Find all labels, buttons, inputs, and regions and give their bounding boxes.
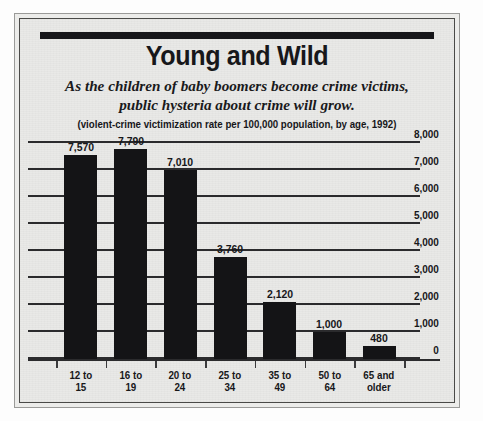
x-axis-tick [106, 361, 108, 368]
category-label-line: 65 and [356, 370, 403, 382]
bar-value-label: 7,790 [97, 135, 164, 147]
bar-value-label: 2,120 [246, 288, 313, 300]
category-label-line: 15 [57, 382, 104, 394]
x-axis-ticks [56, 361, 404, 368]
y-axis-tick-label: 8,000 [395, 128, 439, 140]
category-label-line: 35 to [256, 370, 303, 382]
bar [114, 149, 147, 359]
category-label-line: 12 to [57, 370, 104, 382]
x-axis-category-label: 35 to49 [256, 370, 303, 393]
chart-page: Young and Wild As the children of baby b… [0, 0, 483, 421]
x-axis-tick [255, 361, 257, 368]
category-label-line: 64 [306, 382, 353, 394]
bar-value-label: 1,000 [296, 318, 363, 330]
x-axis-tick [155, 361, 157, 368]
plot-area: 01,0002,0003,0004,0005,0006,0007,0008,00… [28, 141, 446, 359]
category-label-line: 50 to [306, 370, 353, 382]
category-label-line: 19 [107, 382, 154, 394]
chart-units-note: (violent-crime victimization rate per 10… [42, 119, 432, 130]
x-axis-category-label: 20 to24 [157, 370, 204, 393]
bar [164, 170, 197, 359]
x-axis-category-label: 65 andolder [356, 370, 403, 393]
bar-series: 7,5707,7907,0103,7602,1201,000480 [56, 143, 404, 359]
category-label-line: 34 [206, 382, 253, 394]
title-rule [40, 32, 434, 39]
bar-value-label: 7,010 [147, 156, 214, 168]
x-axis-category-label: 12 to15 [57, 370, 104, 393]
category-label-line: older [356, 382, 403, 394]
category-label-line: 20 to [157, 370, 204, 382]
x-axis-tick [56, 361, 58, 368]
bar-group: 480 [354, 143, 404, 359]
x-axis-tick [354, 361, 356, 368]
x-axis-category-label: 16 to19 [107, 370, 154, 393]
chart-subtitle: As the children of baby boomers become c… [46, 76, 428, 114]
bar-group: 7,570 [56, 143, 106, 359]
bar-group: 1,000 [305, 143, 355, 359]
bar [313, 332, 346, 359]
x-axis-tick [205, 361, 207, 368]
page-title: Young and Wild [35, 41, 439, 72]
x-axis-category-labels: 12 to1516 to1920 to2425 to3435 to4950 to… [56, 370, 404, 393]
x-axis-category-label: 25 to34 [206, 370, 253, 393]
x-axis-tick [305, 361, 307, 368]
category-label-line: 49 [256, 382, 303, 394]
bar [363, 346, 396, 359]
bar [263, 302, 296, 359]
bar [214, 257, 247, 359]
category-label-line: 25 to [206, 370, 253, 382]
bar [64, 155, 97, 359]
bar-group: 7,790 [106, 143, 156, 359]
category-label-line: 16 to [107, 370, 154, 382]
x-axis-tick [404, 361, 406, 368]
chart-canvas: Young and Wild As the children of baby b… [20, 19, 454, 402]
bar-group: 3,760 [205, 143, 255, 359]
category-label-line: 24 [157, 382, 204, 394]
x-axis-category-label: 50 to64 [306, 370, 353, 393]
bar-value-label: 480 [346, 332, 413, 344]
bar-value-label: 3,760 [197, 243, 264, 255]
